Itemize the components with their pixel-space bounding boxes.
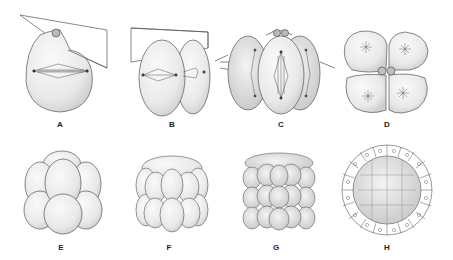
panel-label-a: A (57, 120, 63, 129)
panel-b-drawing (131, 28, 228, 116)
panel-label-g: G (273, 243, 279, 252)
panel-f-drawing (136, 156, 208, 232)
panel-label-h: H (384, 243, 390, 252)
panel-e-drawing (24, 151, 102, 234)
panel-label-e: E (58, 243, 63, 252)
panel-h-drawing (342, 145, 432, 235)
panel-label-f: F (167, 243, 172, 252)
figure-drawing (0, 0, 453, 260)
panel-g-drawing (243, 153, 315, 230)
panel-a-drawing (20, 15, 107, 112)
panel-label-d: D (384, 120, 390, 129)
cleavage-figure: A B C D E F G H (0, 0, 453, 260)
panel-c-drawing (220, 30, 335, 115)
panel-d-drawing (344, 31, 428, 113)
panel-label-b: B (169, 120, 175, 129)
panel-label-c: C (278, 120, 284, 129)
